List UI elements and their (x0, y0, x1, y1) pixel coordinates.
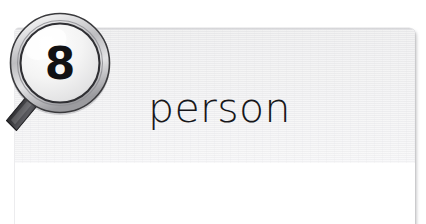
magnifier-icon: 8 (2, 6, 114, 138)
card-title: person (148, 88, 291, 129)
magnifier-number: 8 (45, 38, 76, 89)
screenshot-canvas: person (0, 0, 426, 224)
magnifier-badge[interactable]: 8 (2, 6, 114, 138)
card-body-area (15, 163, 415, 224)
